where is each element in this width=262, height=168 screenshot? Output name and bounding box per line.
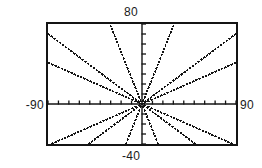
- plot-frame: [46, 22, 238, 146]
- axes-group: [48, 24, 236, 144]
- plot-canvas: [48, 24, 236, 144]
- y-min-label: -40: [0, 150, 262, 162]
- graphing-calculator-screen: 80 -90 90 -40: [0, 0, 262, 168]
- y-max-label: 80: [0, 6, 262, 18]
- x-max-label: 90: [240, 99, 262, 111]
- x-min-label: -90: [4, 99, 44, 111]
- data-line-3: [88, 34, 236, 144]
- data-line-4: [48, 34, 196, 144]
